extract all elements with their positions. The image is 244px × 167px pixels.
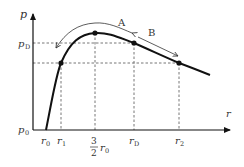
svg-text:D: D (25, 43, 30, 51)
point-rD (131, 40, 136, 45)
point-peak (92, 30, 97, 35)
region-b-label: B (148, 27, 155, 38)
svg-text:1: 1 (62, 140, 66, 148)
svg-text:0: 0 (105, 147, 109, 155)
svg-text:p: p (18, 38, 25, 49)
svg-text:D: D (134, 140, 139, 148)
region-a-label: A (117, 17, 126, 28)
pressure-curve (46, 33, 210, 130)
origin-label-p0: p 0 (18, 124, 29, 137)
x-tick-three-halves-r0: 3 2 r 0 (90, 136, 109, 158)
point-r2 (176, 60, 181, 65)
svg-text:2: 2 (91, 148, 97, 158)
svg-text:2: 2 (180, 140, 184, 148)
svg-text:p: p (18, 124, 25, 135)
svg-text:0: 0 (25, 129, 29, 137)
x-tick-rD: r D (129, 135, 139, 148)
x-tick-r0: r 0 (41, 135, 50, 148)
y-tick-pD: p D (18, 38, 30, 51)
point-r1 (58, 60, 63, 65)
svg-text:3: 3 (91, 136, 97, 146)
pressure-radius-diagram: p r p D p 0 r 0 r 1 3 2 r 0 r D r 2 A B (0, 0, 244, 167)
y-axis-label: p (20, 8, 27, 21)
curve-points (58, 30, 181, 65)
x-tick-r1: r 1 (57, 135, 66, 148)
svg-text:0: 0 (46, 140, 50, 148)
x-axis-label: r (226, 108, 232, 119)
x-tick-r2: r 2 (175, 135, 184, 148)
